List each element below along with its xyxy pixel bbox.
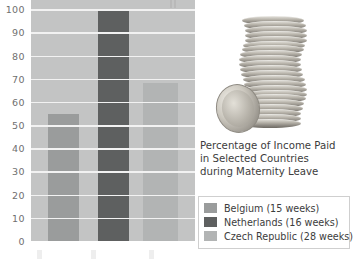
chart-caption: Percentage of Income Paid in Selected Co… [200, 139, 350, 179]
y-axis-tick-label: 40 [12, 143, 25, 154]
gridline [31, 171, 195, 173]
plot-region: 0102030405060708090100 [0, 0, 196, 248]
legend-swatch-icon [204, 203, 217, 213]
gridline [31, 56, 195, 58]
y-axis-tick-label: 60 [12, 96, 25, 107]
gridline [31, 218, 195, 220]
y-axis-tick-label: 90 [12, 27, 25, 38]
y-axis-tick-label: 80 [12, 50, 25, 61]
y-axis-tick-label: 50 [12, 120, 25, 131]
clipped-glyph [37, 250, 42, 259]
caption-line-2: in Selected Countries [200, 152, 350, 165]
caption-line-3: during Maternity Leave [200, 165, 350, 178]
caption-line-1: Percentage of Income Paid [200, 139, 350, 152]
y-axis-tick-label: 30 [12, 166, 25, 177]
legend-label: Netherlands (16 weeks) [224, 217, 338, 228]
legend-item-netherlands[interactable]: Netherlands (16 weeks) [204, 215, 344, 229]
gridline [31, 102, 195, 104]
y-axis-tick-label: 0 [19, 236, 25, 247]
legend-label: Belgium (15 weeks) [224, 203, 319, 214]
plot-area [31, 0, 195, 241]
bar-belgium[interactable] [48, 114, 79, 241]
legend-swatch-icon [204, 217, 217, 227]
baseline-clipped-text [31, 248, 195, 262]
y-axis-tick-label: 20 [12, 189, 25, 200]
crop-mark-icon [174, 0, 176, 8]
gridline [31, 9, 195, 11]
clipped-glyph [91, 250, 96, 259]
legend-item-czech-republic[interactable]: Czech Republic (28 weeks) [204, 229, 344, 243]
legend-swatch-icon [204, 231, 217, 241]
coin-stack-image [214, 8, 332, 136]
y-axis-tick-label: 70 [12, 73, 25, 84]
bar-chart-figure: 0102030405060708090100 Percentage of Inc… [0, 0, 353, 263]
y-axis: 0102030405060708090100 [0, 0, 29, 248]
crop-mark-icon [170, 0, 172, 8]
gridline [31, 125, 195, 127]
gridline [31, 148, 195, 150]
y-axis-tick-label: 100 [6, 4, 25, 15]
gridline [31, 32, 195, 34]
legend-label: Czech Republic (28 weeks) [224, 231, 353, 242]
y-axis-tick-label: 10 [12, 212, 25, 223]
chart-legend: Belgium (15 weeks) Netherlands (16 weeks… [198, 196, 350, 249]
gridline [31, 195, 195, 197]
clipped-glyph [149, 250, 154, 259]
gridline [31, 79, 195, 81]
legend-item-belgium[interactable]: Belgium (15 weeks) [204, 201, 344, 215]
